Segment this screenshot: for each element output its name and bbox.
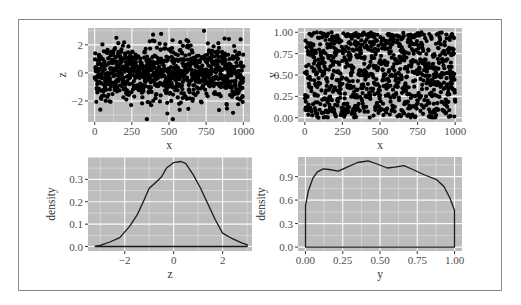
x-axis-title: y	[377, 268, 383, 281]
y-tick-label: 0.9	[279, 171, 293, 183]
x-tick-label: 0.25	[333, 254, 353, 266]
x-axis: 02505007501000	[302, 122, 467, 137]
chart-canvas: 02505007501000−202xz025050075010000.000.…	[0, 0, 521, 305]
y-tick-label: 0	[78, 67, 84, 79]
x-tick-label: 0	[302, 125, 308, 137]
x-tick-label: 2	[220, 254, 226, 266]
x-tick-label: 1000	[444, 125, 467, 137]
x-tick-label: 0.00	[296, 254, 316, 266]
x-axis: 02505007501000	[92, 122, 255, 137]
y-tick-label: −2	[71, 95, 83, 107]
y-tick-label: 0.0	[279, 241, 293, 253]
x-tick-label: 250	[334, 125, 351, 137]
x-axis: 0.000.250.500.751.00	[296, 251, 465, 266]
y-tick-label: 0.25	[274, 90, 294, 102]
y-axis-title: y	[266, 72, 279, 78]
y-tick-label: 0.6	[279, 194, 293, 206]
x-tick-label: 500	[372, 125, 389, 137]
panel-top-right: 025050075010000.000.250.500.751.00xy	[266, 26, 467, 151]
y-tick-label: 2	[78, 39, 84, 51]
x-tick-label: 250	[124, 125, 141, 137]
y-axis: −202	[71, 39, 88, 107]
x-tick-label: 500	[161, 125, 178, 137]
x-axis-title: z	[167, 268, 172, 280]
x-tick-label: −2	[119, 254, 131, 266]
x-axis: −202	[119, 251, 226, 266]
y-axis-title: z	[56, 72, 68, 77]
y-tick-label: 0.3	[69, 173, 83, 185]
plot-background	[88, 157, 252, 251]
x-tick-label: 750	[409, 125, 426, 137]
panel-bottom-right: 0.000.250.500.751.000.00.30.60.9ydensity	[255, 157, 465, 281]
y-tick-label: 0.00	[274, 112, 294, 124]
y-tick-label: 0.75	[274, 48, 294, 60]
x-tick-label: 0.75	[408, 254, 428, 266]
y-tick-label: 0.1	[69, 218, 83, 230]
x-tick-label: 0	[171, 254, 177, 266]
panel-bottom-left: −2020.00.10.20.3zdensity	[45, 157, 252, 280]
x-axis-title: x	[377, 139, 383, 151]
y-axis: 0.00.10.20.3	[69, 173, 88, 252]
x-tick-label: 750	[198, 125, 215, 137]
x-tick-label: 0.50	[370, 254, 390, 266]
y-tick-label: 0.3	[279, 218, 293, 230]
y-tick-label: 1.00	[274, 26, 294, 38]
y-axis-title: density	[255, 187, 268, 220]
y-tick-label: 0.2	[69, 196, 83, 208]
x-tick-label: 1000	[232, 125, 255, 137]
y-axis: 0.00.30.60.9	[279, 171, 298, 254]
x-tick-label: 0	[92, 125, 98, 137]
y-axis-title: density	[45, 187, 58, 220]
x-tick-label: 1.00	[445, 254, 465, 266]
x-axis-title: x	[166, 139, 172, 151]
panel-top-left: 02505007501000−202xz	[56, 28, 255, 151]
y-tick-label: 0.0	[69, 241, 83, 253]
